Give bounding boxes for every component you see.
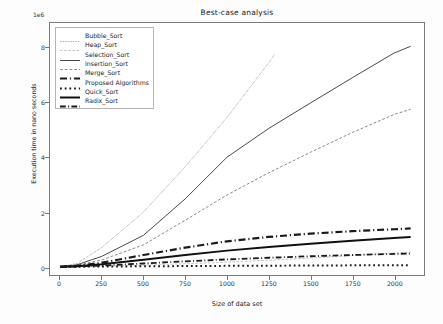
- legend-item[interactable]: Heap_Sort: [59, 40, 149, 49]
- y-axis-label: Execution time in nano seconds: [30, 39, 37, 229]
- series-line-radix-sort: [60, 254, 411, 267]
- x-tick-label: 1750: [333, 280, 373, 287]
- x-tick-mark: [353, 276, 354, 280]
- x-tick-label: 1000: [207, 280, 247, 287]
- legend-label: Proposed Algorithms: [85, 79, 149, 86]
- x-tick-label: 750: [165, 280, 205, 287]
- y-tick-label: 8: [0, 43, 45, 50]
- x-tick-mark: [311, 276, 312, 280]
- y-tick-label: 2: [0, 209, 45, 216]
- series-line-proposed-algorithms: [60, 265, 411, 267]
- x-tick-mark: [185, 276, 186, 280]
- legend-line-swatch: [59, 68, 81, 77]
- x-axis-label: Size of data set: [49, 300, 425, 308]
- legend-line-swatch: [59, 40, 81, 49]
- legend-line-swatch: [59, 78, 81, 87]
- legend-label: Heap_Sort: [85, 41, 117, 48]
- legend-line-swatch: [59, 96, 81, 105]
- legend-item[interactable]: Quick_Sort: [59, 87, 149, 96]
- legend-label: Selection_Sort: [85, 51, 129, 58]
- y-axis-offset-label: 1e6: [33, 11, 44, 18]
- legend-item[interactable]: Selection_Sort: [59, 50, 149, 59]
- y-tick-label: 0: [0, 264, 45, 271]
- legend-item[interactable]: Radix_Sort: [59, 96, 149, 105]
- x-tick-label: 0: [39, 280, 79, 287]
- x-tick-label: 2000: [375, 280, 415, 287]
- y-tick-label: 4: [0, 154, 45, 161]
- x-tick-mark: [101, 276, 102, 280]
- legend-line-swatch: [59, 31, 81, 40]
- x-tick-mark: [269, 276, 270, 280]
- x-tick-mark: [227, 276, 228, 280]
- legend-item[interactable]: Proposed Algorithms: [59, 77, 149, 86]
- legend-label: Radix_Sort: [85, 97, 118, 104]
- legend-line-swatch: [59, 87, 81, 96]
- x-tick-mark: [143, 276, 144, 280]
- x-tick-label: 1250: [249, 280, 289, 287]
- series-line-merge-sort: [60, 228, 411, 266]
- legend: Bubble_SortHeap_SortSelection_SortInsert…: [55, 27, 154, 109]
- legend-line-swatch: [59, 59, 81, 68]
- legend-item[interactable]: Merge_Sort: [59, 68, 149, 77]
- series-line-insertion-sort: [60, 109, 411, 267]
- x-tick-mark: [59, 276, 60, 280]
- y-tick-label: 6: [0, 99, 45, 106]
- legend-item[interactable]: Insertion_Sort: [59, 59, 149, 68]
- chart-title: Best-case analysis: [49, 8, 425, 17]
- x-tick-label: 250: [81, 280, 121, 287]
- legend-item[interactable]: Bubble_Sort: [59, 31, 149, 40]
- legend-label: Insertion_Sort: [85, 60, 128, 67]
- legend-label: Bubble_Sort: [85, 32, 122, 39]
- legend-label: Merge_Sort: [85, 69, 120, 76]
- x-tick-mark: [395, 276, 396, 280]
- legend-line-swatch: [59, 50, 81, 59]
- x-tick-label: 500: [123, 280, 163, 287]
- x-tick-label: 1500: [291, 280, 331, 287]
- figure-canvas: Best-case analysis 1e6 Execution time in…: [0, 0, 443, 324]
- legend-label: Quick_Sort: [85, 88, 118, 95]
